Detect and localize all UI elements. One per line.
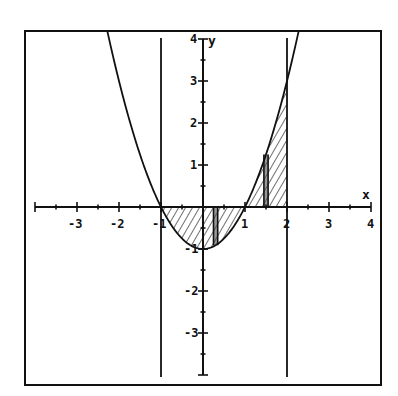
x-tick-label: 4 [367,217,374,231]
function-plot: -3-2-112344321-1-2-3 x y [0,0,398,396]
y-tick-label: 1 [190,158,197,172]
x-tick-label: 3 [325,217,332,231]
y-tick-label: -3 [184,326,198,340]
y-tick-label: 4 [190,32,197,46]
y-tick-label: 2 [190,116,197,130]
x-axis-label: x [362,187,370,202]
y-tick-label: 3 [190,74,197,88]
axes [35,39,371,375]
y-axis-label: y [208,33,216,48]
x-tick-label: -2 [110,217,124,231]
x-tick-label: 2 [283,217,290,231]
tick-labels: -3-2-112344321-1-2-3 [68,32,374,340]
x-tick-label: 1 [241,217,248,231]
y-tick-label: -1 [184,242,198,256]
x-tick-label: -3 [68,217,82,231]
shaded-area [161,81,287,249]
y-tick-label: -2 [184,284,198,298]
x-tick-label: -1 [152,217,166,231]
